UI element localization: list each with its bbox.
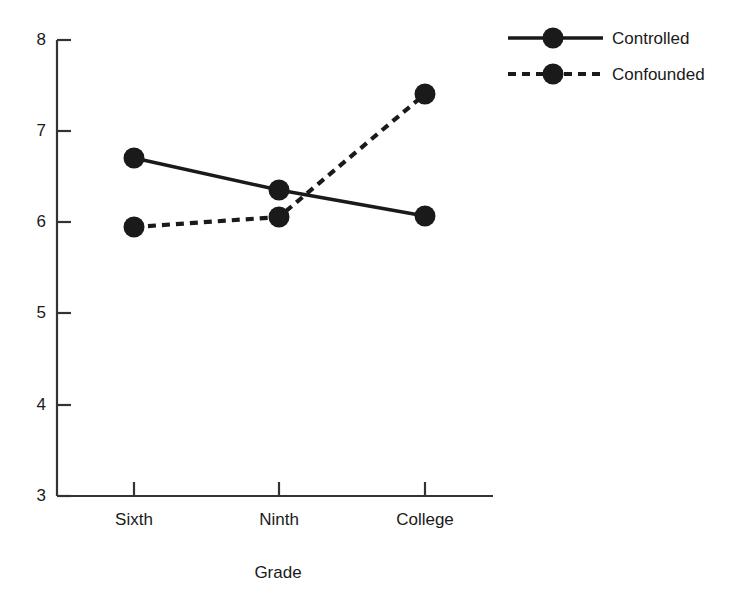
data-point-controlled-sixth xyxy=(124,148,145,169)
y-tick-label-3: 3 xyxy=(22,487,46,504)
y-tick-label-7: 7 xyxy=(22,122,46,139)
legend-label-controlled: Controlled xyxy=(612,30,690,47)
legend-mark-controlled xyxy=(508,28,603,49)
x-tick-label-ninth: Ninth xyxy=(219,511,339,528)
y-tick-label-6: 6 xyxy=(22,213,46,230)
y-tick-label-8: 8 xyxy=(22,31,46,48)
data-point-controlled-college xyxy=(415,206,436,227)
series-confounded xyxy=(124,84,436,238)
chart-figure: 8 7 6 5 4 3 Sixth Ninth College Grade Co… xyxy=(0,0,730,608)
x-axis-ticks xyxy=(134,482,425,496)
y-tick-label-4: 4 xyxy=(22,396,46,413)
x-tick-label-sixth: Sixth xyxy=(74,511,194,528)
data-point-confounded-sixth xyxy=(124,217,145,238)
x-tick-label-college: College xyxy=(365,511,485,528)
y-tick-label-5: 5 xyxy=(22,304,46,321)
legend-mark-confounded xyxy=(508,64,603,85)
x-axis-title: Grade xyxy=(218,563,338,583)
y-axis-ticks xyxy=(57,40,71,496)
data-point-confounded-ninth xyxy=(269,207,290,228)
legend-label-confounded: Confounded xyxy=(612,66,705,83)
data-point-confounded-college xyxy=(415,84,436,105)
data-point-controlled-ninth xyxy=(269,180,290,201)
